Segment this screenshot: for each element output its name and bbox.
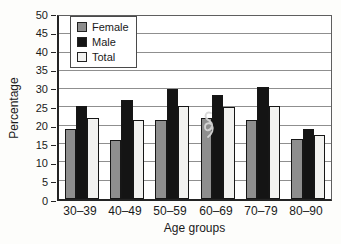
x-tick-label-70-79: 70–79 <box>237 204 285 218</box>
y-tick-mark-35 <box>51 71 56 72</box>
bar-total-30-39 <box>87 118 98 199</box>
y-tick-label-20: 20 <box>22 120 48 133</box>
y-tick-label-50: 50 <box>22 9 48 22</box>
bar-chart-figure: Percentage Female Male Total Age groups … <box>0 0 341 244</box>
y-tick-label-5: 5 <box>22 176 48 189</box>
bar-male-80-90 <box>303 129 314 199</box>
y-tick-label-15: 15 <box>22 139 48 152</box>
gridline-10 <box>59 161 331 162</box>
gridline-5 <box>59 180 331 181</box>
y-axis-title: Percentage <box>7 77 21 138</box>
x-tick-label-40-49: 40–49 <box>101 204 149 218</box>
bar-female-60-69 <box>201 118 212 199</box>
bar-total-40-49 <box>133 120 144 199</box>
legend-swatch-female <box>77 22 87 32</box>
bar-female-40-49 <box>110 140 121 199</box>
y-tick-label-35: 35 <box>22 64 48 77</box>
legend-swatch-total <box>77 52 87 62</box>
y-tick-label-30: 30 <box>22 83 48 96</box>
y-tick-mark-25 <box>51 108 56 109</box>
legend-label-female: Female <box>92 21 129 33</box>
gridline-25 <box>59 106 331 107</box>
y-tick-label-0: 0 <box>22 195 48 208</box>
legend: Female Male Total <box>70 16 137 68</box>
bar-male-50-59 <box>167 89 178 199</box>
legend-label-total: Total <box>92 51 115 63</box>
bar-female-30-39 <box>65 129 76 199</box>
legend-label-male: Male <box>92 36 116 48</box>
y-tick-mark-15 <box>51 145 56 146</box>
legend-item-male: Male <box>77 36 129 48</box>
y-tick-mark-45 <box>51 34 56 35</box>
bar-female-70-79 <box>246 120 257 199</box>
x-tick-label-60-69: 60–69 <box>192 204 240 218</box>
bar-total-70-79 <box>269 106 280 199</box>
bar-male-70-79 <box>257 87 268 199</box>
x-tick-label-80-90: 80–90 <box>282 204 330 218</box>
y-tick-mark-40 <box>51 52 56 53</box>
legend-item-female: Female <box>77 21 129 33</box>
x-axis-title: Age groups <box>57 221 332 235</box>
bar-total-80-90 <box>314 135 325 199</box>
y-tick-mark-0 <box>51 201 56 202</box>
y-tick-mark-10 <box>51 164 56 165</box>
bar-male-40-49 <box>121 100 132 199</box>
y-tick-label-40: 40 <box>22 46 48 59</box>
y-tick-mark-5 <box>51 182 56 183</box>
x-tick-label-50-59: 50–59 <box>146 204 194 218</box>
y-tick-mark-20 <box>51 127 56 128</box>
bar-total-50-59 <box>178 106 189 199</box>
bar-female-50-59 <box>155 120 166 199</box>
bar-male-30-39 <box>76 106 87 199</box>
y-tick-label-45: 45 <box>22 27 48 40</box>
legend-item-total: Total <box>77 51 129 63</box>
y-tick-label-10: 10 <box>22 157 48 170</box>
legend-swatch-male <box>77 37 87 47</box>
y-tick-label-25: 25 <box>22 102 48 115</box>
x-tick-label-30-39: 30–39 <box>56 204 104 218</box>
bar-total-60-69 <box>223 107 234 199</box>
gridline-30 <box>59 88 331 89</box>
y-tick-mark-50 <box>51 15 56 16</box>
gridline-15 <box>59 143 331 144</box>
bar-male-60-69 <box>212 95 223 199</box>
gridline-20 <box>59 125 331 126</box>
bar-female-80-90 <box>291 139 302 199</box>
y-tick-mark-30 <box>51 89 56 90</box>
gridline-35 <box>59 70 331 71</box>
